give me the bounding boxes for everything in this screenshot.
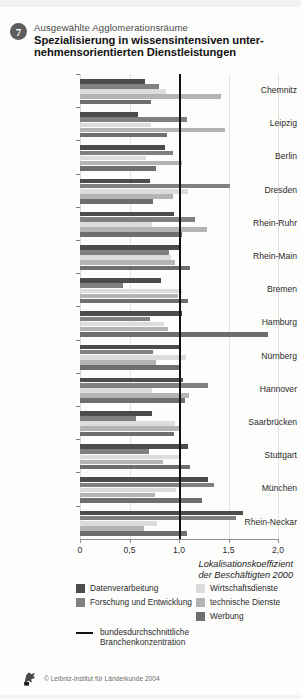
bar-forschung-und-entwicklung — [80, 117, 187, 122]
bar-werbung — [80, 166, 156, 171]
bar-datenverarbeitung — [80, 311, 182, 316]
bar-group — [80, 439, 301, 472]
chart-category-row: Berlin — [0, 140, 301, 173]
bar-technische-dienste — [80, 194, 173, 199]
bar-datenverarbeitung — [80, 278, 161, 283]
bar-datenverarbeitung — [80, 345, 179, 350]
reference-line — [179, 306, 181, 339]
bar-werbung — [80, 266, 190, 271]
chart-category-row: Hannover — [0, 373, 301, 406]
bar-forschung-und-entwicklung — [80, 217, 195, 222]
bar-werbung — [80, 531, 187, 536]
x-tick-mark — [278, 539, 279, 543]
bar-datenverarbeitung — [80, 145, 165, 150]
bar-technische-dienste — [80, 260, 175, 265]
bar-datenverarbeitung — [80, 212, 174, 217]
reference-line — [179, 140, 181, 173]
x-tick-label: 0,5 — [124, 545, 136, 555]
reference-line — [179, 207, 181, 240]
reference-line-label-line-1: bundesdurchschnittliche — [100, 627, 189, 637]
top-margin-band — [0, 0, 301, 7]
bar-wirtschaftsdienste — [80, 222, 152, 227]
bar-datenverarbeitung — [80, 444, 188, 449]
bar-werbung — [80, 100, 151, 105]
bar-wirtschaftsdienste — [80, 322, 164, 327]
reference-line — [179, 373, 181, 406]
reference-line-label: bundesdurchschnittliche Branchenkonzentr… — [100, 628, 189, 648]
legend-item-forschung-und-entwicklung: Forschung und Entwicklung — [76, 597, 192, 607]
bar-wirtschaftsdienste — [80, 123, 151, 128]
chart-category-row: Leipzig — [0, 107, 301, 140]
chart-category-row: Rhein-Neckar — [0, 506, 301, 539]
bar-group — [80, 340, 301, 373]
bar-wirtschaftsdienste — [80, 189, 188, 194]
bar-werbung — [80, 199, 153, 204]
legend-reference-line-item: bundesdurchschnittliche Branchenkonzentr… — [76, 628, 189, 648]
x-axis-title-line-1: Lokalisationskoeffizient — [199, 559, 293, 569]
figure-root: 7 Ausgewählte Agglomerationsräume Spezia… — [0, 0, 301, 699]
bar-wirtschaftsdienste — [80, 156, 146, 161]
bar-werbung — [80, 365, 181, 370]
legend-label: Forschung und Entwicklung — [90, 597, 192, 607]
x-tick-mark — [130, 539, 131, 543]
bar-group — [80, 306, 301, 339]
reference-line-swatch — [76, 632, 93, 634]
reference-line — [179, 74, 181, 107]
bar-wirtschaftsdienste — [80, 521, 157, 526]
chart-legend: DatenverarbeitungForschung und Entwicklu… — [0, 583, 301, 639]
reference-line — [179, 506, 181, 539]
x-tick-label: 2,0 — [272, 545, 284, 555]
bar-werbung — [80, 332, 268, 337]
leibniz-institut-logo-icon — [22, 670, 39, 687]
legend-label: Datenverarbeitung — [90, 583, 158, 593]
page-title: Spezialisierung in wissensintensiven unt… — [34, 34, 264, 59]
bar-group — [80, 140, 301, 173]
bar-forschung-und-entwicklung — [80, 250, 169, 255]
bar-werbung — [80, 398, 185, 403]
bar-group — [80, 174, 301, 207]
reference-line — [179, 240, 181, 273]
legend-swatch — [76, 598, 85, 607]
bar-datenverarbeitung — [80, 411, 152, 416]
bar-datenverarbeitung — [80, 378, 183, 383]
chart-category-row: Rhein-Main — [0, 240, 301, 273]
legend-item-datenverarbeitung: Datenverarbeitung — [76, 583, 192, 593]
legend-column-2: Wirtschaftsdienstetechnische DiensteWerb… — [196, 583, 280, 626]
legend-item-werbung: Werbung — [196, 611, 280, 621]
bar-werbung — [80, 432, 174, 437]
x-tick-mark — [229, 539, 230, 543]
reference-line — [179, 406, 181, 439]
figure-title-line-2: nehmensorientierten Dienstleistungen — [34, 46, 236, 58]
bar-forschung-und-entwicklung — [80, 383, 208, 388]
chart-category-row: Chemnitz — [0, 74, 301, 107]
bar-datenverarbeitung — [80, 179, 150, 184]
figure-header: 7 Ausgewählte Agglomerationsräume Spezia… — [0, 22, 301, 59]
bar-group — [80, 107, 301, 140]
bar-technische-dienste — [80, 94, 221, 99]
x-tick-label: 1,5 — [223, 545, 235, 555]
bar-technische-dienste — [80, 393, 189, 398]
bar-forschung-und-entwicklung — [80, 350, 153, 355]
chart-category-row: Saarbrücken — [0, 406, 301, 439]
legend-swatch — [196, 598, 205, 607]
bar-werbung — [80, 232, 182, 237]
bar-group — [80, 273, 301, 306]
reference-line-label-line-2: Branchenkonzentration — [100, 637, 185, 647]
bar-technische-dienste — [80, 360, 156, 365]
bar-forschung-und-entwicklung — [80, 483, 214, 488]
bar-wirtschaftsdienste — [80, 488, 176, 493]
bar-group — [80, 240, 301, 273]
bar-datenverarbeitung — [80, 477, 208, 482]
bar-wirtschaftsdienste — [80, 89, 166, 94]
legend-item-technische-dienste: technische Dienste — [196, 597, 280, 607]
bar-werbung — [80, 498, 202, 503]
bar-technische-dienste — [80, 426, 181, 431]
bar-wirtschaftsdienste — [80, 355, 186, 360]
bar-forschung-und-entwicklung — [80, 184, 230, 189]
bar-technische-dienste — [80, 327, 168, 332]
x-tick-label: 1,0 — [173, 545, 185, 555]
bar-forschung-und-entwicklung — [80, 84, 159, 89]
legend-column-1: DatenverarbeitungForschung und Entwicklu… — [76, 583, 192, 611]
bar-wirtschaftsdienste — [80, 455, 181, 460]
legend-swatch — [76, 584, 85, 593]
